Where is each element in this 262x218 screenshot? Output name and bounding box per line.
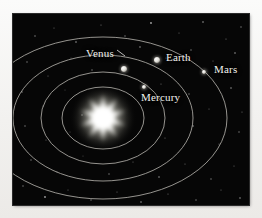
background-star bbox=[34, 35, 35, 36]
background-star bbox=[225, 38, 226, 39]
planet-earth bbox=[154, 57, 160, 63]
planet-venus bbox=[121, 66, 127, 72]
background-star bbox=[100, 24, 101, 25]
background-star bbox=[108, 173, 109, 174]
background-star bbox=[44, 196, 46, 198]
background-star bbox=[150, 22, 152, 24]
background-star bbox=[53, 27, 54, 28]
sun-core bbox=[95, 110, 110, 125]
background-star bbox=[195, 199, 196, 200]
space-panel: MercuryVenusEarthMars bbox=[13, 14, 249, 205]
background-star bbox=[70, 132, 71, 133]
background-star bbox=[202, 21, 204, 23]
background-star bbox=[22, 185, 23, 186]
background-star bbox=[240, 26, 241, 27]
background-star bbox=[210, 178, 211, 179]
label-venus: Venus bbox=[86, 48, 114, 59]
background-star bbox=[220, 189, 221, 190]
background-star bbox=[233, 165, 234, 166]
solar-system-figure: MercuryVenusEarthMars bbox=[0, 0, 262, 218]
background-star bbox=[239, 197, 241, 199]
planet-mercury bbox=[142, 85, 146, 89]
background-star bbox=[45, 139, 46, 140]
background-star bbox=[26, 61, 27, 62]
background-star bbox=[188, 93, 189, 94]
background-star bbox=[83, 156, 84, 157]
sun bbox=[69, 84, 137, 152]
background-star bbox=[24, 125, 25, 126]
background-star bbox=[75, 41, 77, 43]
background-star bbox=[212, 60, 213, 61]
background-star bbox=[184, 163, 185, 164]
background-star bbox=[234, 52, 236, 54]
background-star bbox=[90, 199, 91, 200]
background-star bbox=[140, 201, 142, 203]
background-star bbox=[124, 35, 125, 36]
label-mars: Mars bbox=[214, 64, 237, 75]
background-star bbox=[164, 137, 165, 138]
label-mercury: Mercury bbox=[141, 92, 180, 103]
background-star bbox=[30, 159, 31, 160]
planet-mars bbox=[202, 70, 206, 74]
background-star bbox=[208, 108, 209, 109]
background-star bbox=[67, 189, 68, 190]
background-star bbox=[116, 191, 117, 192]
label-leader-lines bbox=[117, 50, 125, 56]
background-star bbox=[65, 90, 66, 91]
background-star bbox=[218, 143, 219, 144]
background-star bbox=[178, 32, 179, 33]
background-star bbox=[241, 111, 242, 112]
background-star bbox=[238, 131, 239, 132]
background-star bbox=[158, 176, 160, 178]
background-star bbox=[230, 87, 232, 89]
background-star bbox=[167, 193, 168, 194]
background-star bbox=[139, 46, 141, 48]
background-star bbox=[160, 83, 161, 84]
background-star bbox=[132, 161, 133, 162]
orbit-scene bbox=[13, 14, 249, 205]
label-earth: Earth bbox=[166, 52, 191, 63]
background-star bbox=[47, 75, 48, 76]
background-star bbox=[91, 69, 92, 70]
leader-line-venus bbox=[117, 50, 125, 56]
